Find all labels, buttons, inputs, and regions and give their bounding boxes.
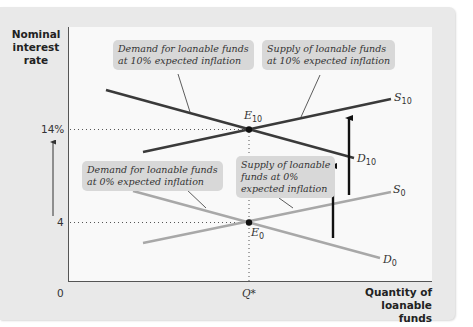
leader-supply10 — [301, 75, 320, 117]
demand-curve-d10 — [106, 90, 354, 158]
label-base: D — [357, 152, 366, 165]
y-tick-14: 14% — [41, 123, 64, 135]
label-sub: 0 — [259, 232, 264, 241]
label-d10: D10 — [357, 152, 376, 167]
y-axis-label-line: interest — [8, 41, 64, 54]
callout-line: at 10% expected inflation — [267, 55, 390, 67]
x-axis-label-line: Quantity of — [350, 286, 432, 299]
y-axis-label-line: Nominal — [8, 28, 64, 41]
callout-line: Demand for loanable funds — [118, 43, 249, 55]
label-s0: S0 — [393, 183, 406, 198]
callout-line: Supply of loanable funds — [267, 43, 390, 55]
y-axis-label: Nominal interest rate — [8, 28, 64, 67]
callout-demand-0: Demand for loanable funds at 0% expected… — [82, 161, 223, 191]
label-base: D — [383, 253, 392, 266]
y-tick-4: 4 — [57, 216, 64, 228]
label-d0: D0 — [383, 253, 397, 268]
callout-line: Demand for loanable funds — [87, 164, 218, 176]
label-sub: 0 — [392, 259, 397, 268]
supply-curve-s10 — [143, 99, 391, 152]
leader-supply0 — [279, 198, 293, 208]
label-base: S — [394, 91, 402, 104]
label-sub: 10 — [402, 97, 412, 106]
x-axis-label-line: loanable funds — [350, 299, 432, 325]
callout-line: funds at 0% — [241, 171, 330, 183]
leader-demand10 — [178, 74, 190, 112]
y-axis-label-line: rate — [8, 54, 64, 67]
label-sub: 10 — [366, 158, 376, 167]
callout-supply-10: Supply of loanable funds at 10% expected… — [262, 40, 395, 70]
callout-line: Supply of loanable — [241, 159, 330, 171]
label-base: E — [251, 226, 259, 239]
label-base: S — [393, 183, 401, 196]
label-sub: 10 — [252, 115, 262, 124]
label-e0: E0 — [251, 226, 264, 241]
callout-line: at 10% expected inflation — [118, 55, 249, 67]
label-sub: 0 — [401, 189, 406, 198]
x-tick-origin: 0 — [57, 287, 64, 299]
x-axis-label: Quantity of loanable funds — [350, 286, 432, 325]
label-base: E — [244, 109, 252, 122]
callout-line: at 0% expected inflation — [87, 176, 218, 188]
equilibrium-point-e10 — [246, 126, 252, 132]
label-s10: S10 — [394, 91, 412, 106]
callout-supply-0: Supply of loanable funds at 0% expected … — [236, 156, 335, 198]
equilibrium-point-e0 — [246, 219, 252, 225]
label-e10: E10 — [244, 109, 262, 124]
x-tick-qstar: Q* — [242, 287, 256, 299]
callout-demand-10: Demand for loanable funds at 10% expecte… — [113, 40, 254, 70]
callout-line: expected inflation — [241, 183, 330, 195]
supply-curve-s0 — [143, 192, 391, 243]
